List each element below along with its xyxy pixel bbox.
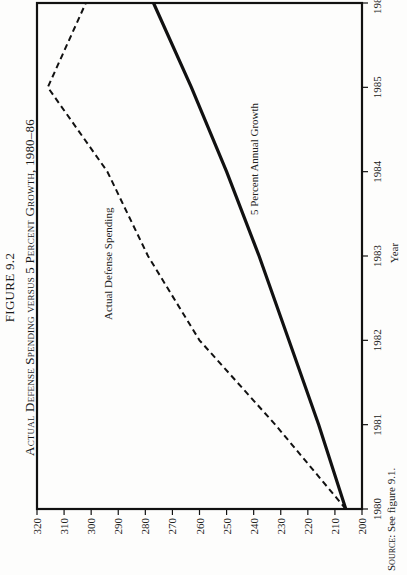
- x-axis-title: Year: [388, 243, 400, 264]
- y-tick-label: 260: [194, 518, 206, 535]
- y-tick-label: 300: [85, 518, 97, 535]
- y-tick-label: 270: [166, 518, 178, 535]
- y-tick-label: 320: [31, 518, 43, 535]
- y-tick-label: 280: [139, 518, 151, 535]
- source-label: Source:: [385, 535, 397, 571]
- five-percent-growth-line: [154, 3, 346, 509]
- x-tick-label: 1983: [371, 245, 383, 268]
- y-tick-label: 290: [112, 518, 124, 535]
- y-tick-label: 240: [248, 518, 260, 535]
- y-tick-label: 210: [329, 518, 341, 535]
- x-tick-label: 1985: [371, 76, 383, 99]
- y-tick-label: 250: [221, 518, 233, 535]
- plot-frame: [37, 3, 362, 509]
- y-tick-label: 310: [58, 518, 70, 535]
- series-label-growth: 5 Percent Annual Growth: [248, 102, 260, 215]
- x-tick-label: 1986: [371, 0, 383, 14]
- source-note: Source: See figure 9.1.: [385, 468, 397, 571]
- line-chart: 200210220230240250260270280290300310320 …: [0, 0, 407, 575]
- series-lines: [48, 3, 346, 509]
- y-axis: 200210220230240250260270280290300310320: [31, 509, 368, 535]
- x-tick-label: 1980: [371, 498, 383, 521]
- actual-spending-line: [48, 3, 346, 509]
- x-tick-label: 1984: [371, 160, 383, 183]
- figure-page: FIGURE 9.2 Actual Defense Spending versu…: [0, 0, 407, 575]
- x-axis: 1980198119821983198419851986: [362, 0, 383, 520]
- x-tick-label: 1981: [371, 414, 383, 436]
- y-tick-label: 230: [275, 518, 287, 535]
- source-text: See figure 9.1.: [385, 468, 397, 532]
- y-tick-label: 220: [302, 518, 314, 535]
- series-label-actual: Actual Defense Spending: [102, 207, 114, 320]
- y-tick-label: 200: [356, 518, 368, 535]
- x-tick-label: 1982: [371, 329, 383, 351]
